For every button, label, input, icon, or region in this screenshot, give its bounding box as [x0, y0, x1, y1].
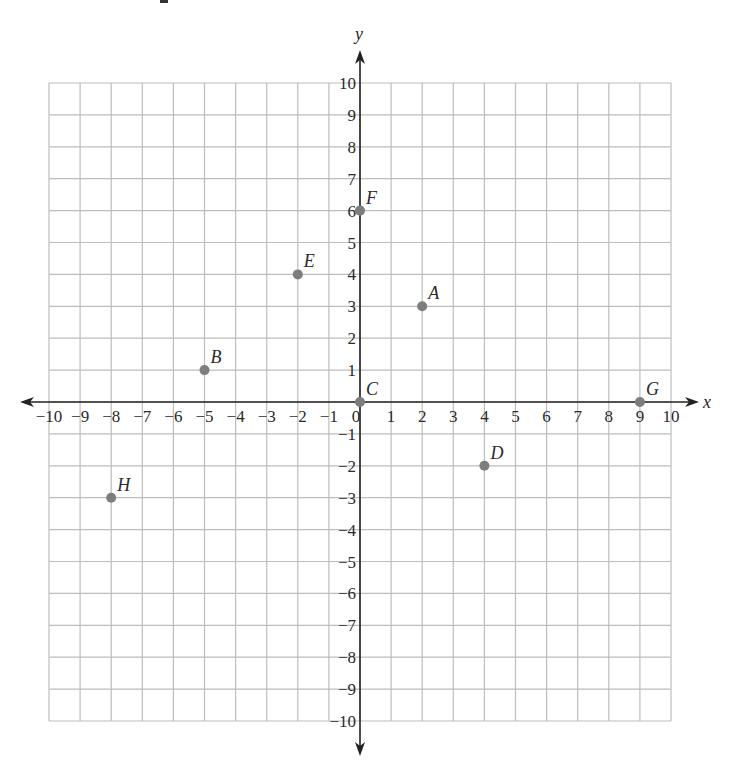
- plotted-points: ABCDEFGH: [106, 188, 659, 503]
- x-tick-label: −9: [71, 407, 89, 426]
- point-label: F: [365, 188, 378, 208]
- x-tick-label: 2: [418, 407, 427, 426]
- x-tick-label: −7: [133, 407, 152, 426]
- x-tick-label: −8: [102, 407, 120, 426]
- y-axis-label: y: [353, 24, 363, 44]
- point-marker: [479, 461, 489, 471]
- x-tick-label: −5: [195, 407, 213, 426]
- x-tick-label: 7: [573, 407, 582, 426]
- x-tick-label: 4: [480, 407, 489, 426]
- x-tick-label: 6: [542, 407, 551, 426]
- y-tick-label: −10: [329, 712, 356, 731]
- point-marker: [417, 301, 427, 311]
- coordinate-plane: −10−9−8−7−6−5−4−3−2−10123456789101098765…: [0, 0, 733, 774]
- y-tick-label: 1: [348, 361, 357, 380]
- point-marker: [635, 397, 645, 407]
- y-tick-label: 6: [348, 202, 357, 221]
- y-tick-label: 2: [348, 329, 357, 348]
- y-tick-label: −5: [338, 553, 356, 572]
- point-label: B: [211, 347, 222, 367]
- point-marker: [355, 206, 365, 216]
- point-label: A: [427, 283, 440, 303]
- y-tick-label: −3: [338, 489, 356, 508]
- x-tick-label: −10: [36, 407, 63, 426]
- point-h: H: [106, 475, 131, 503]
- x-tick-label: −1: [320, 407, 338, 426]
- x-tick-label: 10: [663, 407, 680, 426]
- x-tick-label: 9: [636, 407, 645, 426]
- x-tick-label: 8: [605, 407, 614, 426]
- y-tick-label: −8: [338, 648, 356, 667]
- y-tick-label: −2: [338, 457, 356, 476]
- point-marker: [355, 397, 365, 407]
- point-a: A: [417, 283, 440, 311]
- y-tick-label: −1: [338, 425, 356, 444]
- y-tick-label: 9: [348, 106, 357, 125]
- point-label: C: [366, 379, 379, 399]
- x-tick-label: 1: [387, 407, 396, 426]
- x-tick-label: −6: [164, 407, 182, 426]
- x-tick-label: 5: [511, 407, 520, 426]
- point-marker: [106, 493, 116, 503]
- x-tick-label: −4: [227, 407, 246, 426]
- y-tick-label: 3: [348, 297, 357, 316]
- x-tick-label: −2: [289, 407, 307, 426]
- x-tick-label: −3: [258, 407, 276, 426]
- point-label: G: [646, 379, 659, 399]
- y-tick-label: 8: [348, 138, 357, 157]
- point-b: B: [200, 347, 222, 375]
- x-tick-label: 0: [352, 407, 361, 426]
- y-tick-label: 4: [348, 265, 357, 284]
- x-axis-label: x: [702, 392, 711, 412]
- point-d: D: [479, 443, 503, 471]
- point-e: E: [293, 251, 315, 279]
- point-label: H: [116, 475, 131, 495]
- point-label: D: [489, 443, 503, 463]
- point-marker: [200, 365, 210, 375]
- y-tick-label: −4: [338, 521, 357, 540]
- point-marker: [293, 269, 303, 279]
- x-tick-label: 3: [449, 407, 458, 426]
- y-tick-label: −6: [338, 584, 356, 603]
- point-label: E: [303, 251, 315, 271]
- y-tick-label: 5: [348, 234, 357, 253]
- y-tick-label: −9: [338, 680, 356, 699]
- y-tick-label: 10: [339, 74, 356, 93]
- y-tick-label: 7: [348, 170, 357, 189]
- y-tick-label: −7: [338, 616, 357, 635]
- point-f: F: [355, 188, 378, 216]
